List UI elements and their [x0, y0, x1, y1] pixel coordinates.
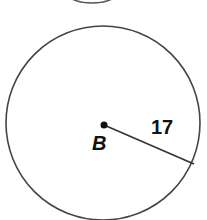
center-point: [101, 122, 108, 129]
circle-diagram: B 17: [0, 0, 207, 220]
radius-line: [104, 125, 194, 164]
center-label: B: [92, 132, 106, 154]
partial-previous-figure: [68, 0, 116, 3]
radius-label: 17: [151, 116, 173, 138]
